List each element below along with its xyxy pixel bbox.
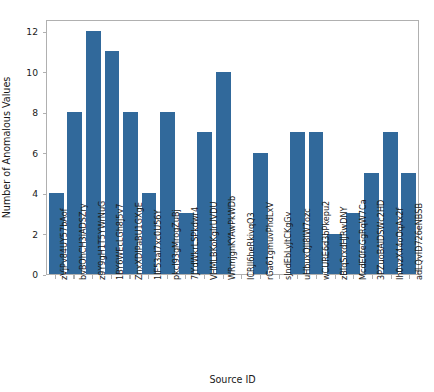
x-axis-tick: pkcI93gMrogZuBj xyxy=(158,275,177,371)
x-axis-tick-label: zBIqSrxdHJRwDNY xyxy=(339,207,349,280)
x-axis-tick-label: sJndEbLyJtCKgGv xyxy=(283,212,293,280)
x-axis-tick: 7JYdWkrLSPkdwr4 xyxy=(177,275,196,371)
x-axis-tick: zVjPv84UY57bAof xyxy=(46,275,65,371)
y-axis-tick-label: 6 xyxy=(32,147,38,161)
x-axis-tick: 1BY6WEcLGh8j5v7 xyxy=(102,275,121,371)
x-axis-tick-label: 7JYdWkrLSPkdwr4 xyxy=(190,207,200,280)
x-axis-tick: sJndEbLyJtCKgGv xyxy=(270,275,289,371)
y-axis-tick-label: 8 xyxy=(32,106,38,120)
x-axis-tick-label: wCURE6d3bPkepu2 xyxy=(321,201,331,280)
x-axis-tick: VHMLBKoKgIrUVDU xyxy=(195,275,214,371)
x-axis-tick-mark xyxy=(129,275,130,279)
x-axis-tick-mark xyxy=(279,275,280,279)
x-axis-tick: ICRJl6heRkivqQ3 xyxy=(233,275,252,371)
x-axis-tick-mark xyxy=(316,275,317,279)
x-axis-title-text: Source ID xyxy=(209,374,255,385)
x-axis-title: Source ID xyxy=(46,374,419,385)
x-axis-tick-mark xyxy=(409,275,410,279)
x-axis-tick-label: zVjPv84UY57bAof xyxy=(59,208,69,280)
x-axis-tick-mark xyxy=(73,275,74,279)
x-axis-tick-mark xyxy=(55,275,56,279)
y-axis-ticks: 024681012 xyxy=(0,20,46,275)
x-axis-tick-mark xyxy=(111,275,112,279)
x-axis-tick-mark xyxy=(92,275,93,279)
x-axis-tick-mark xyxy=(335,275,336,279)
y-axis-tick-label: 0 xyxy=(32,268,38,282)
x-axis-tick: adLQvID726eNBSB xyxy=(400,275,419,371)
x-axis-tick: rGa61gmuvPhdLxV xyxy=(251,275,270,371)
x-axis-tick-label: Ih0vzX44oOqAx2f xyxy=(395,208,405,280)
x-axis-tick-label: VHMLBKoKgIrUVDU xyxy=(209,202,219,280)
x-axis-tick-label: 1IF53aI7xc0U56Y xyxy=(153,210,163,280)
x-axis-tick-mark xyxy=(204,275,205,279)
x-axis-tick: WRmjgnKYAwPkWDb xyxy=(214,275,233,371)
x-axis-tick-mark xyxy=(297,275,298,279)
x-axis-tick-label: 1BY6WEcLGh8j5v7 xyxy=(115,204,125,280)
x-axis-tick: wCURE6d3bPkepu2 xyxy=(307,275,326,371)
x-axis-tick-mark xyxy=(353,275,354,279)
bar-chart-figure: Number of Anomalous Values 024681012 zVj… xyxy=(0,0,434,392)
y-axis-tick-label: 10 xyxy=(26,66,38,80)
x-axis-tick: 3PZuoBAlDSWc2HD xyxy=(363,275,382,371)
x-axis-tick-mark xyxy=(185,275,186,279)
y-axis-tick-label: 12 xyxy=(26,25,38,39)
x-axis-tick-mark xyxy=(391,275,392,279)
x-axis-tick-label: 3PZuoBAlDSWc2HD xyxy=(376,200,386,280)
x-axis-tick-label: WRmjgnKYAwPkWDb xyxy=(227,196,237,280)
x-axis-tick: McdE0feGgRqW7Ca xyxy=(345,275,364,371)
x-axis-tick-mark xyxy=(148,275,149,279)
x-axis-tick: uHbuxQJl8IW7ozc xyxy=(289,275,308,371)
x-axis-tick-mark xyxy=(167,275,168,279)
x-axis-tick: ZnxXDIPaBU1GXgE xyxy=(121,275,140,371)
x-axis-tick: z9Y9gH1T5YWrNuG xyxy=(83,275,102,371)
x-axis-tick-label: pkcI93gMrogZuBj xyxy=(171,209,181,280)
x-axis-tick-label: rGa61gmuvPhdLxV xyxy=(265,202,275,280)
x-axis-tick: zBIqSrxdHJRwDNY xyxy=(326,275,345,371)
x-axis-tick-mark xyxy=(241,275,242,279)
y-axis-tick-label: 2 xyxy=(32,228,38,242)
x-axis-ticks: zVjPv84UY57bAofbvBOhCH3iADSZryz9Y9gH1T5Y… xyxy=(46,275,419,371)
x-axis-tick-label: ICRJl6heRkivqQ3 xyxy=(246,212,256,280)
x-axis-tick-mark xyxy=(260,275,261,279)
x-axis-tick-label: ZnxXDIPaBU1GXgE xyxy=(134,202,144,280)
x-axis-tick-label: McdE0feGgRqW7Ca xyxy=(358,199,368,280)
x-axis-tick-mark xyxy=(223,275,224,279)
x-axis-tick-label: z9Y9gH1T5YWrNuG xyxy=(97,201,107,280)
x-axis-tick: Ih0vzX44oOqAx2f xyxy=(382,275,401,371)
x-axis-tick-label: bvBOhCH3iADSZry xyxy=(78,203,88,280)
x-axis-tick-mark xyxy=(372,275,373,279)
x-axis-tick-label: adLQvID726eNBSB xyxy=(414,203,424,280)
y-axis-tick-label: 4 xyxy=(32,187,38,201)
x-axis-tick: 1IF53aI7xc0U56Y xyxy=(139,275,158,371)
x-axis-tick-label: uHbuxQJl8IW7ozc xyxy=(302,208,312,280)
x-axis-tick: bvBOhCH3iADSZry xyxy=(65,275,84,371)
